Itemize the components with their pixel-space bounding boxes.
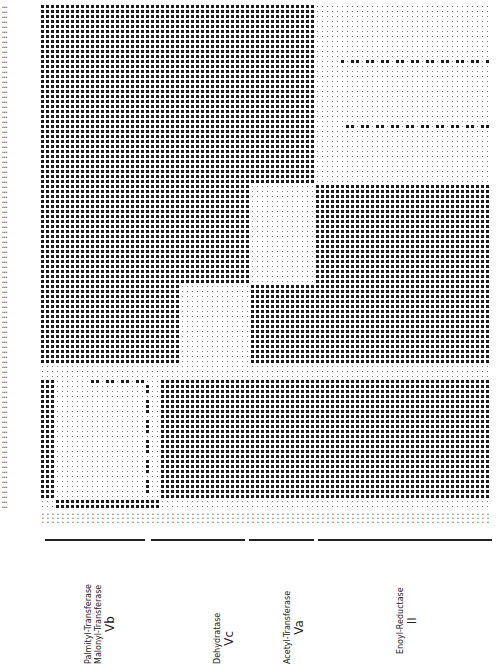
column-tick-label: ▪▪▪ xyxy=(76,512,80,526)
row-tick-label: ▪▪▪ xyxy=(2,295,16,299)
row-tick-label: ▪▪▪ xyxy=(2,160,16,164)
column-tick-label: ▪▪▪ xyxy=(96,512,100,526)
row-tick-label: ▪▪▪ xyxy=(2,230,16,234)
column-tick-label: ▪▪▪ xyxy=(231,512,235,526)
column-tick-label: ▪▪▪ xyxy=(296,512,300,526)
column-tick-label: ▪▪▪ xyxy=(481,512,485,526)
row-tick-label: ▪▪▪ xyxy=(2,495,16,499)
row-tick-label: ▪▪▪ xyxy=(2,325,16,329)
row-tick-label: ▪▪▪ xyxy=(2,500,16,504)
column-tick-label: ▪▪▪ xyxy=(426,512,430,526)
row-tick-label: ▪▪▪ xyxy=(2,425,16,429)
row-tick-label: ▪▪▪ xyxy=(2,70,16,74)
column-tick-label: ▪▪▪ xyxy=(46,512,50,526)
row-tick-label: ▪▪▪ xyxy=(2,410,16,414)
column-tick-label: ▪▪▪ xyxy=(221,512,225,526)
row-tick-label: ▪▪▪ xyxy=(2,150,16,154)
column-tick-label: ▪▪▪ xyxy=(61,512,65,526)
row-tick-label: ▪▪▪ xyxy=(2,60,16,64)
row-tick-label: ▪▪▪ xyxy=(2,180,16,184)
column-tick-label: ▪▪▪ xyxy=(81,512,85,526)
row-tick-label: ▪▪▪ xyxy=(2,240,16,244)
row-tick-label: ▪▪▪ xyxy=(2,210,16,214)
row-tick-label: ▪▪▪ xyxy=(2,430,16,434)
column-tick-label: ▪▪▪ xyxy=(151,512,155,526)
domain-name: Palmityl-Transferase xyxy=(84,584,94,664)
row-tick-label: ▪▪▪ xyxy=(2,45,16,49)
column-tick-label: ▪▪▪ xyxy=(336,512,340,526)
row-tick-label: ▪▪▪ xyxy=(2,115,16,119)
domain-label: DehydrataseVc xyxy=(213,613,236,664)
row-tick-label: ▪▪▪ xyxy=(2,250,16,254)
row-tick-label: ▪▪▪ xyxy=(2,225,16,229)
row-tick-label: ▪▪▪ xyxy=(2,280,16,284)
column-tick-label: ▪▪▪ xyxy=(216,512,220,526)
row-tick-label: ▪▪▪ xyxy=(2,415,16,419)
row-tick-label: ▪▪▪ xyxy=(2,95,16,99)
column-tick-label: ▪▪▪ xyxy=(186,512,190,526)
row-tick-label: ▪▪▪ xyxy=(2,395,16,399)
column-tick-label: ▪▪▪ xyxy=(116,512,120,526)
domain-numeral: II xyxy=(406,587,419,654)
row-tick-label: ▪▪▪ xyxy=(2,340,16,344)
column-tick-label: ▪▪▪ xyxy=(311,512,315,526)
column-tick-label: ▪▪▪ xyxy=(356,512,360,526)
row-tick-label: ▪▪▪ xyxy=(2,435,16,439)
column-tick-label: ▪▪▪ xyxy=(131,512,135,526)
row-tick-label: ▪▪▪ xyxy=(2,185,16,189)
column-tick-label: ▪▪▪ xyxy=(211,512,215,526)
row-tick-label: ▪▪▪ xyxy=(2,480,16,484)
column-tick-label: ▪▪▪ xyxy=(161,512,165,526)
row-tick-label: ▪▪▪ xyxy=(2,170,16,174)
row-tick-label: ▪▪▪ xyxy=(2,390,16,394)
row-tick-label: ▪▪▪ xyxy=(2,90,16,94)
row-tick-label: ▪▪▪ xyxy=(2,55,16,59)
row-tick-label: ▪▪▪ xyxy=(2,375,16,379)
row-tick-label: ▪▪▪ xyxy=(2,140,16,144)
column-tick-label: ▪▪▪ xyxy=(266,512,270,526)
column-tick-label: ▪▪▪ xyxy=(86,512,90,526)
column-tick-label: ▪▪▪ xyxy=(361,512,365,526)
row-tick-label: ▪▪▪ xyxy=(2,260,16,264)
row-tick-label: ▪▪▪ xyxy=(2,400,16,404)
row-tick-label: ▪▪▪ xyxy=(2,120,16,124)
row-tick-label: ▪▪▪ xyxy=(2,50,16,54)
row-tick-label: ▪▪▪ xyxy=(2,85,16,89)
row-tick-label: ▪▪▪ xyxy=(2,155,16,159)
column-tick-label: ▪▪▪ xyxy=(291,512,295,526)
row-tick-label: ▪▪▪ xyxy=(2,245,16,249)
column-tick-label: ▪▪▪ xyxy=(206,512,210,526)
column-tick-label: ▪▪▪ xyxy=(461,512,465,526)
row-tick-label: ▪▪▪ xyxy=(2,450,16,454)
domain-numeral: Vc xyxy=(223,613,236,664)
column-tick-label: ▪▪▪ xyxy=(271,512,275,526)
row-tick-label: ▪▪▪ xyxy=(2,405,16,409)
row-tick-label: ▪▪▪ xyxy=(2,270,16,274)
row-tick-label: ▪▪▪ xyxy=(2,130,16,134)
column-tick-label: ▪▪▪ xyxy=(71,512,75,526)
column-tick-label: ▪▪▪ xyxy=(366,512,370,526)
column-tick-label: ▪▪▪ xyxy=(451,512,455,526)
row-tick-label: ▪▪▪ xyxy=(2,165,16,169)
domain-label: Enoyl-ReductaseII xyxy=(396,587,419,654)
row-tick-label: ▪▪▪ xyxy=(2,110,16,114)
row-tick-label: ▪▪▪ xyxy=(2,330,16,334)
column-tick-label: ▪▪▪ xyxy=(101,512,105,526)
row-tick-label: ▪▪▪ xyxy=(2,385,16,389)
column-tick-label: ▪▪▪ xyxy=(441,512,445,526)
row-tick-label: ▪▪▪ xyxy=(2,275,16,279)
row-tick-label: ▪▪▪ xyxy=(2,65,16,69)
row-tick-label: ▪▪▪ xyxy=(2,305,16,309)
column-tick-label: ▪▪▪ xyxy=(411,512,415,526)
row-tick-label: ▪▪▪ xyxy=(2,195,16,199)
row-tick-label: ▪▪▪ xyxy=(2,30,16,34)
column-tick-label: ▪▪▪ xyxy=(391,512,395,526)
column-tick-label: ▪▪▪ xyxy=(276,512,280,526)
column-tick-label: ▪▪▪ xyxy=(436,512,440,526)
row-tick-label: ▪▪▪ xyxy=(2,460,16,464)
column-tick-label: ▪▪▪ xyxy=(136,512,140,526)
row-tick-label: ▪▪▪ xyxy=(2,285,16,289)
column-tick-label: ▪▪▪ xyxy=(51,512,55,526)
column-tick-label: ▪▪▪ xyxy=(351,512,355,526)
column-tick-label: ▪▪▪ xyxy=(246,512,250,526)
